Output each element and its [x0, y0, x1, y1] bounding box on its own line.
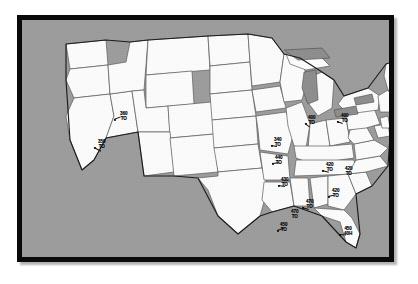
annotation-virginia: 420TO: [326, 163, 333, 172]
annotation-illinois-unit: TO: [274, 143, 281, 148]
lake-michigan: [302, 70, 318, 104]
us-map-svg: [22, 20, 389, 257]
state-idaho: [108, 40, 148, 94]
state-florida: [314, 208, 360, 248]
map-plate: 360TO350TO400TO400TO340TO440TO430TO420TO…: [22, 20, 389, 257]
annotation-new-york: 400TO: [341, 114, 348, 123]
leader-louisiana-dot: [277, 230, 279, 232]
leader-virginia-dot: [322, 170, 324, 172]
annotation-nevada: 350TO: [98, 140, 105, 149]
state-new-england: [378, 90, 389, 112]
state-washington: [66, 40, 108, 69]
annotation-alabama-unit: TO: [291, 215, 298, 220]
annotation-illinois: 340TO: [274, 138, 281, 147]
annotation-georgia-unit: TO: [306, 205, 313, 210]
leader-south-carolina-dot: [328, 196, 330, 198]
leader-florida-dot: [339, 234, 341, 236]
state-wyoming: [146, 71, 194, 108]
annotation-south-carolina-unit: TO: [332, 194, 339, 199]
framed-map-figure: 360TO350TO400TO400TO340TO440TO430TO420TO…: [17, 15, 394, 262]
annotation-louisiana: 450TO: [280, 223, 287, 232]
state-texas: [198, 168, 268, 234]
annotation-utah-idaho-unit: TO: [120, 117, 127, 122]
annotation-kentucky: 430TO: [281, 178, 288, 187]
leader-kentucky-dot: [278, 185, 280, 187]
state-new-mexico: [170, 134, 218, 176]
annotation-michigan-ohio-unit: TO: [308, 121, 315, 126]
leader-indiana-dot: [272, 163, 274, 165]
state-new-jersey: [380, 116, 389, 128]
leader-illinois-dot: [271, 145, 273, 147]
annotation-new-york-unit: TO: [341, 119, 348, 124]
state-shapes-west: [66, 36, 218, 176]
annotation-north-carolina: 420TO: [345, 167, 352, 176]
leader-new-york-dot: [337, 121, 339, 123]
state-oregon: [66, 65, 110, 98]
state-north-dakota: [208, 34, 250, 66]
state-minnesota: [248, 34, 284, 86]
state-south-dakota: [210, 62, 252, 94]
annotation-indiana: 440TO: [275, 156, 282, 165]
state-colorado: [168, 102, 214, 138]
annotation-south-carolina: 420TO: [332, 189, 339, 198]
annotation-nevada-unit: TO: [98, 145, 105, 150]
annotation-florida-unit: 40H: [344, 232, 352, 237]
state-nebraska: [210, 90, 256, 120]
state-california: [66, 94, 114, 170]
annotation-utah-idaho: 360TO: [120, 112, 127, 121]
annotation-florida: 45040H: [344, 227, 352, 236]
state-kansas: [212, 116, 258, 148]
state-iowa: [252, 86, 286, 112]
annotation-michigan-ohio: 400TO: [308, 116, 315, 125]
state-north-carolina: [348, 156, 388, 174]
state-oklahoma: [214, 144, 262, 172]
annotation-kentucky-unit: TO: [281, 183, 288, 188]
leader-michigan-ohio-dot: [305, 123, 307, 125]
annotation-north-carolina-unit: TO: [345, 172, 352, 177]
annotation-indiana-unit: TO: [275, 161, 282, 166]
leader-georgia-dot: [302, 207, 304, 209]
annotation-alabama: 470TO: [291, 210, 298, 219]
leader-nevada-dot: [94, 147, 96, 149]
annotation-virginia-unit: TO: [326, 168, 333, 173]
annotation-georgia: 470TO: [306, 200, 313, 209]
state-montana: [146, 36, 210, 75]
annotation-louisiana-unit: TO: [280, 228, 287, 233]
leader-utah-idaho-dot: [114, 119, 116, 121]
